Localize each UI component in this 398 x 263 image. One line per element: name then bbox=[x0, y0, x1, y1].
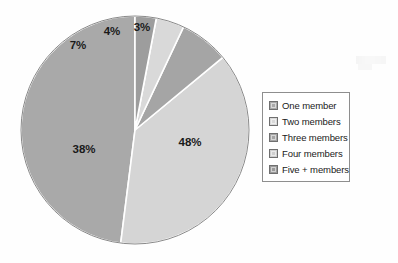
legend-item-five-plus-members[interactable]: Five + members bbox=[269, 161, 346, 177]
pie-slice-data-label: 48% bbox=[178, 136, 201, 148]
legend-label-one-member: One member bbox=[282, 100, 336, 111]
legend-item-three-members[interactable]: Three members bbox=[269, 129, 346, 145]
pie-slice-data-label: 4% bbox=[104, 25, 121, 37]
scan-artifact bbox=[356, 56, 386, 64]
legend-label-five-plus-members: Five + members bbox=[282, 164, 349, 175]
legend-label-two-members: Two members bbox=[282, 116, 341, 127]
legend-item-two-members[interactable]: Two members bbox=[269, 113, 346, 129]
legend-swatch-five-plus-members bbox=[269, 165, 278, 174]
legend-label-four-members: Four members bbox=[282, 148, 343, 159]
legend-label-three-members: Three members bbox=[282, 132, 348, 143]
pie-slice-data-label: 3% bbox=[134, 21, 151, 33]
pie-slice-group bbox=[21, 16, 249, 244]
legend-swatch-four-members bbox=[269, 149, 278, 158]
pie-chart-figure: 48%38%7%4%3% One member Two members Thre… bbox=[0, 0, 398, 263]
chart-legend: One member Two members Three members Fou… bbox=[262, 92, 350, 182]
legend-swatch-two-members bbox=[269, 117, 278, 126]
pie-slice-data-label: 38% bbox=[72, 143, 95, 155]
legend-swatch-one-member bbox=[269, 101, 278, 110]
pie-slice-data-label: 7% bbox=[70, 39, 87, 51]
legend-swatch-three-members bbox=[269, 133, 278, 142]
legend-item-four-members[interactable]: Four members bbox=[269, 145, 346, 161]
scan-artifact-secondary bbox=[358, 64, 372, 70]
legend-item-one-member[interactable]: One member bbox=[269, 97, 346, 113]
